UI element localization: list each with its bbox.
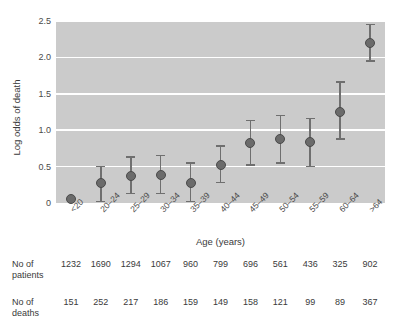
table-cell: 325	[333, 259, 348, 269]
y-axis-tick-label: 2.5	[38, 16, 51, 26]
y-axis-tick-label: 1.0	[38, 125, 51, 135]
y-axis-tick-label: 2.0	[38, 52, 51, 62]
table-cell: 1690	[91, 259, 111, 269]
data-point-marker	[305, 137, 315, 147]
error-bar-cap	[366, 60, 375, 62]
row-label-deaths: No of deaths	[12, 297, 56, 319]
table-cell: 960	[183, 259, 198, 269]
table-cell: 1294	[121, 259, 141, 269]
error-bar-cap	[126, 156, 135, 158]
row-label-patients: No of patients	[12, 259, 56, 281]
table-cell: 696	[243, 259, 258, 269]
row-cells-patients: 1232169012941067960799696561436325902	[56, 259, 385, 283]
plot-area	[56, 21, 385, 203]
error-bar-cap	[276, 115, 285, 117]
error-bar-cap	[306, 118, 315, 120]
table-cell: 99	[305, 297, 315, 307]
table-cell: 121	[273, 297, 288, 307]
row-cells-deaths: 1512522171861591491581219989367	[56, 297, 385, 321]
table-cell: 159	[183, 297, 198, 307]
error-bar-cap	[156, 193, 165, 195]
error-bar-cap	[186, 162, 195, 164]
error-bar-cap	[246, 120, 255, 122]
data-point-marker	[216, 160, 226, 170]
data-series-layer	[56, 21, 385, 203]
row-label-line2: deaths	[12, 308, 56, 319]
error-bar-cap	[306, 166, 315, 168]
table-cell: 89	[335, 297, 345, 307]
table-cell: 902	[363, 259, 378, 269]
table-cell: 367	[363, 297, 378, 307]
forest-plot-figure: 00.51.01.52.02.5 Log odds of death <2020…	[0, 0, 397, 333]
table-cell: 252	[93, 297, 108, 307]
y-axis-tick-label: 1.5	[38, 89, 51, 99]
data-point-marker	[186, 178, 196, 188]
table-cell: 1067	[151, 259, 171, 269]
error-bar-cap	[336, 81, 345, 83]
y-axis-tick-label: 0.5	[38, 162, 51, 172]
error-bar-cap	[216, 145, 225, 147]
table-cell: 436	[303, 259, 318, 269]
data-point-marker	[335, 107, 345, 117]
table-cell: 1232	[61, 259, 81, 269]
table-cell: 799	[213, 259, 228, 269]
data-point-marker	[365, 38, 375, 48]
error-bar-cap	[246, 164, 255, 166]
x-axis-label: Age (years)	[56, 236, 385, 247]
table-cell: 561	[273, 259, 288, 269]
data-point-marker	[275, 134, 285, 144]
y-axis-tick-labels: 00.51.01.52.02.5	[0, 0, 51, 333]
table-cell: 149	[213, 297, 228, 307]
y-axis-tick-label: 0	[46, 198, 51, 208]
row-label-line1: No of	[12, 297, 56, 308]
data-point-marker	[156, 170, 166, 180]
error-bar-cap	[216, 182, 225, 184]
error-bar-cap	[156, 155, 165, 157]
table-cell: 217	[123, 297, 138, 307]
error-bar-cap	[96, 166, 105, 168]
error-bar-cap	[336, 138, 345, 140]
row-label-line1: No of	[12, 259, 56, 270]
data-point-marker	[245, 138, 255, 148]
table-cell: 186	[153, 297, 168, 307]
data-point-marker	[96, 178, 106, 188]
table-cell: 151	[63, 297, 78, 307]
data-point-marker	[126, 171, 136, 181]
row-label-line2: patients	[12, 270, 56, 281]
y-axis-label: Log odds of death	[11, 58, 22, 178]
error-bar-cap	[366, 24, 375, 26]
table-cell: 158	[243, 297, 258, 307]
error-bar-cap	[126, 193, 135, 195]
error-bar-cap	[276, 162, 285, 164]
